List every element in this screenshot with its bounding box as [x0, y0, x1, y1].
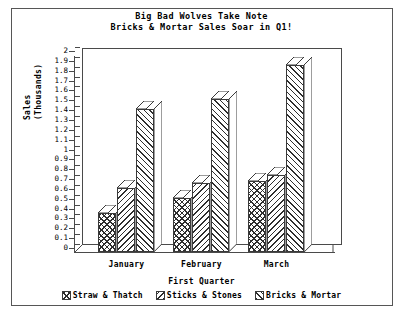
y-axis-tick-label: 1.2	[54, 126, 68, 134]
y-axis-tick	[69, 100, 75, 101]
legend-swatch-icon	[156, 291, 165, 300]
x-axis-category-label: February	[159, 260, 244, 269]
y-axis-tick-inner	[75, 185, 80, 186]
y-axis-tick-label: 0.4	[54, 205, 68, 213]
bar	[211, 99, 229, 252]
y-axis-tick	[69, 209, 75, 210]
y-axis-tick	[69, 199, 75, 200]
bar	[248, 181, 266, 252]
bar-front-face	[267, 175, 285, 252]
bar-top-face	[211, 91, 229, 99]
bar-top-face	[98, 205, 116, 213]
y-axis-tick-label: 1.7	[54, 77, 68, 85]
chart-container: Big Bad Wolves Take Note Bricks & Mortar…	[0, 0, 403, 315]
y-axis-tick-inner	[75, 86, 80, 87]
y-axis-tick-label: 0.6	[54, 185, 68, 193]
x-axis-title: First Quarter	[0, 277, 403, 286]
y-axis-tick	[69, 140, 75, 141]
bar-top-face	[192, 175, 210, 183]
y-axis-tick-label: 1.1	[54, 136, 68, 144]
y-axis-tick	[69, 189, 75, 190]
y-axis-tick-inner	[75, 195, 80, 196]
y-axis-tick-inner	[75, 224, 80, 225]
bar	[98, 213, 116, 252]
y-axis-tick-label: 1.6	[54, 86, 68, 94]
y-axis-tick	[69, 51, 75, 52]
y-axis-tick-label: 1.8	[54, 67, 68, 75]
bar-top-face	[248, 173, 266, 181]
bar-front-face	[248, 181, 266, 252]
y-axis-tick	[69, 90, 75, 91]
y-axis-tick-inner	[75, 67, 80, 68]
y-axis-tick-inner	[75, 146, 80, 147]
y-axis-tick-label: 0.5	[54, 195, 68, 203]
y-axis-tick	[69, 159, 75, 160]
bar	[286, 65, 304, 252]
bar	[117, 188, 135, 252]
bar-front-face	[136, 109, 154, 252]
bar-top-face	[286, 57, 304, 65]
y-axis-tick-label: 1	[63, 146, 68, 154]
y-axis-tick-inner	[75, 205, 80, 206]
bar-top-face	[267, 167, 285, 175]
y-axis-tick	[69, 248, 75, 249]
y-axis-tick-label: 1.5	[54, 96, 68, 104]
y-axis-tick-inner	[75, 155, 80, 156]
legend-swatch-icon	[62, 291, 71, 300]
bar-top-face	[136, 101, 154, 109]
y-axis-tick-label: 0.2	[54, 224, 68, 232]
y-axis-tick-inner	[75, 126, 80, 127]
bar-front-face	[98, 213, 116, 252]
y-axis-tick-label: 1.9	[54, 57, 68, 65]
y-axis-tick	[69, 61, 75, 62]
y-axis-tick	[69, 150, 75, 151]
bar-side-face	[229, 91, 237, 252]
bar-front-face	[286, 65, 304, 252]
y-axis-tick-inner	[75, 175, 80, 176]
y-axis-tick-inner	[75, 96, 80, 97]
y-axis-tick-label: 1.3	[54, 116, 68, 124]
bar	[192, 183, 210, 252]
chart-legend: Straw & ThatchSticks & StonesBricks & Mo…	[0, 291, 403, 300]
bar-side-face	[154, 101, 162, 252]
bar-front-face	[173, 198, 191, 252]
legend-label: Sticks & Stones	[167, 291, 242, 300]
y-axis-tick	[69, 130, 75, 131]
y-axis-tick-inner	[75, 165, 80, 166]
y-axis-tick-label: 0.3	[54, 214, 68, 222]
legend-label: Straw & Thatch	[73, 291, 143, 300]
legend-swatch-icon	[255, 291, 264, 300]
y-axis-tick-label: 1.4	[54, 106, 68, 114]
bar	[173, 198, 191, 252]
legend-item: Sticks & Stones	[156, 291, 242, 300]
y-axis-tick	[69, 228, 75, 229]
y-axis-tick-label: 2	[63, 47, 68, 55]
legend-item: Straw & Thatch	[62, 291, 143, 300]
y-axis-tick	[69, 71, 75, 72]
y-axis-tick-label: 0.1	[54, 234, 68, 242]
x-axis-category-label: March	[234, 260, 319, 269]
y-axis-tick-label: 0.7	[54, 175, 68, 183]
legend-item: Bricks & Mortar	[255, 291, 341, 300]
y-axis-tick	[69, 110, 75, 111]
y-axis-tick	[69, 120, 75, 121]
y-axis-tick-label: 0	[63, 244, 68, 252]
bar-front-face	[192, 183, 210, 252]
y-axis-tick-inner	[75, 244, 80, 245]
plot-area: 21.91.81.71.61.51.41.31.21.110.90.80.70.…	[74, 48, 342, 253]
chart-title-block: Big Bad Wolves Take Note Bricks & Mortar…	[0, 11, 403, 33]
bar-front-face	[211, 99, 229, 252]
y-axis-tick-label: 0.9	[54, 155, 68, 163]
x-axis-category-label: January	[84, 260, 169, 269]
x-axis-line	[74, 252, 335, 253]
y-axis-tick-inner	[75, 116, 80, 117]
y-axis-tick	[69, 81, 75, 82]
y-axis-tick	[69, 169, 75, 170]
y-axis-tick-inner	[75, 106, 80, 107]
y-axis-tick	[69, 179, 75, 180]
bar-side-face	[304, 57, 312, 252]
chart-title: Big Bad Wolves Take Note	[0, 11, 403, 22]
bar	[267, 175, 285, 252]
y-axis-tick-inner	[75, 234, 80, 235]
legend-label: Bricks & Mortar	[266, 291, 341, 300]
